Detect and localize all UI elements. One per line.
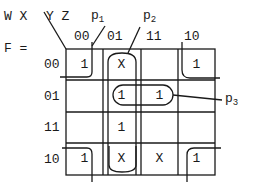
cell-r1-c2: 1	[141, 80, 178, 111]
column-variables-label: Y Z	[46, 10, 69, 23]
p3-label: p3	[225, 92, 238, 110]
cell-r1-c0	[66, 80, 103, 111]
col-header-10: 10	[184, 30, 200, 43]
cell-r2-c1: 1	[103, 112, 140, 143]
row-header-11: 11	[44, 121, 60, 134]
row-variables-label: W X	[4, 10, 27, 23]
cell-r0-c2	[141, 49, 178, 80]
cell-r3-c2: X	[141, 143, 178, 174]
p1-leader	[92, 26, 105, 46]
function-label: F =	[4, 42, 27, 55]
cell-r3-c1: X	[103, 143, 140, 174]
p1-label: p1	[91, 9, 104, 27]
cell-r2-c3	[178, 112, 215, 143]
col-header-11: 11	[146, 30, 162, 43]
row-header-01: 01	[44, 90, 60, 103]
cell-r1-c3	[178, 80, 215, 111]
cell-r2-c0	[66, 112, 103, 143]
row-header-10: 10	[44, 153, 60, 166]
col-header-01: 01	[107, 30, 123, 43]
row-header-00: 00	[44, 58, 60, 71]
cell-r3-c0: 1	[66, 143, 103, 174]
cell-r0-c1: X	[103, 49, 140, 80]
cell-r2-c2	[141, 112, 178, 143]
cell-r1-c1: 1	[103, 80, 140, 111]
col-header-00: 00	[74, 30, 90, 43]
cell-r0-c0: 1	[66, 49, 103, 80]
cell-r3-c3: 1	[178, 143, 215, 174]
cell-r0-c3: 1	[178, 49, 215, 80]
p2-label: p2	[143, 9, 156, 27]
